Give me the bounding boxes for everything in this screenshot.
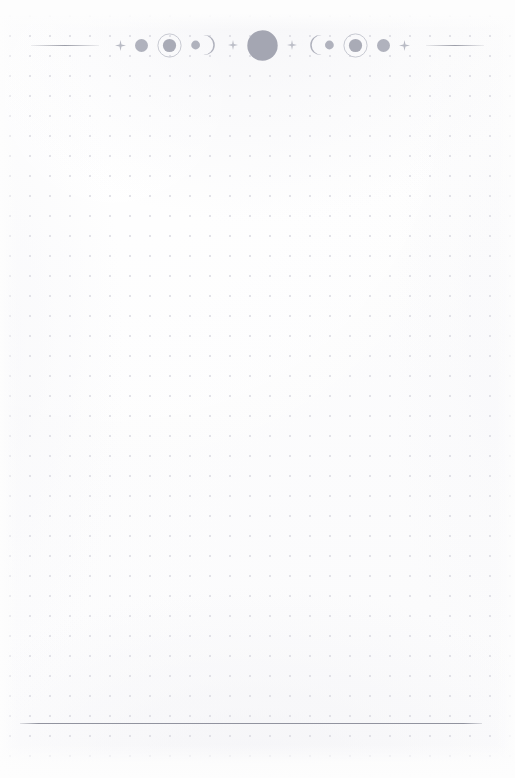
header-rule-left — [31, 45, 99, 46]
moon-disc-small — [377, 39, 390, 52]
crescent-dot-icon-right — [306, 34, 334, 56]
header-rule-right — [426, 45, 484, 46]
full-moon-disc-center — [247, 30, 278, 61]
ringed-moon-icon-right — [343, 33, 368, 58]
ringed-moon-icon-left — [157, 33, 182, 58]
sparkle-icon — [399, 40, 410, 51]
footer-rule — [20, 723, 482, 724]
sparkle-icon — [287, 40, 297, 50]
sparkle-icon — [228, 40, 238, 50]
header-lunar-divider — [0, 25, 515, 65]
writing-area[interactable] — [20, 70, 495, 715]
notebook-page — [0, 0, 515, 778]
dot-crescent-icon-left — [191, 34, 219, 56]
sparkle-icon — [115, 40, 126, 51]
moon-disc-small — [135, 39, 148, 52]
